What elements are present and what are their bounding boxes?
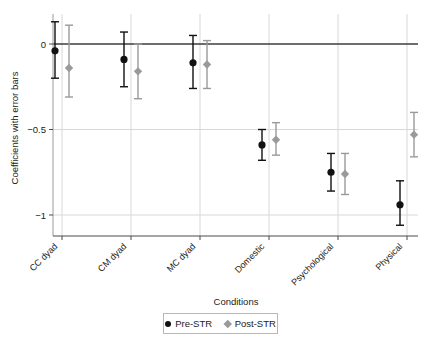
legend-item-post-str: Post-STR — [225, 319, 276, 329]
x-axis-category-label: MC dyad — [165, 241, 198, 274]
marker-circle — [189, 59, 196, 66]
plot-canvas: 0−0.5−1CC dyadCM dyadMC dyadDomesticPsyc… — [0, 0, 440, 351]
marker-circle — [51, 47, 58, 54]
datapoint-pre-str-3 — [258, 130, 266, 161]
coefficient-plot-figure: 0−0.5−1CC dyadCM dyadMC dyadDomesticPsyc… — [0, 0, 440, 351]
datapoint-pre-str-4 — [327, 153, 335, 191]
datapoint-pre-str-1 — [120, 32, 128, 87]
diamond-marker-icon — [224, 320, 232, 328]
y-axis-tick-label: −0.5 — [27, 124, 46, 135]
x-axis-category-label: CM dyad — [96, 241, 129, 274]
marker-diamond — [65, 64, 73, 72]
y-axis-tick-label: 0 — [41, 39, 46, 50]
x-axis-title: Conditions — [214, 296, 259, 307]
marker-diamond — [203, 60, 211, 68]
marker-circle — [120, 56, 127, 63]
datapoint-post-str-5 — [410, 112, 418, 156]
x-axis-category-label: Psychological — [289, 241, 335, 287]
datapoint-post-str-4 — [341, 153, 349, 194]
legend-item-pre-str: Pre-STR — [165, 319, 212, 329]
datapoint-pre-str-5 — [396, 181, 404, 225]
datapoint-post-str-0 — [65, 25, 73, 97]
legend-label-pre-str: Pre-STR — [175, 319, 212, 329]
datapoint-post-str-2 — [203, 41, 211, 89]
y-axis-tick-label: −1 — [35, 210, 46, 221]
legend-label-post-str: Post-STR — [235, 319, 276, 329]
x-axis-category-label: Domestic — [233, 241, 267, 275]
y-axis-title: Coefficients with error bars — [9, 71, 20, 184]
datapoint-pre-str-0 — [51, 22, 59, 78]
marker-diamond — [272, 136, 280, 144]
marker-diamond — [410, 130, 418, 138]
marker-circle — [327, 169, 334, 176]
marker-diamond — [341, 170, 349, 178]
datapoint-post-str-3 — [272, 123, 280, 155]
circle-marker-icon — [165, 321, 171, 327]
marker-circle — [258, 141, 265, 148]
x-axis-category-label: CC dyad — [28, 241, 60, 273]
chart-legend: Pre-STR Post-STR — [163, 313, 278, 334]
marker-circle — [396, 201, 403, 208]
datapoint-post-str-1 — [134, 44, 142, 99]
x-axis-category-label: Physical — [374, 241, 405, 272]
marker-diamond — [134, 67, 142, 75]
